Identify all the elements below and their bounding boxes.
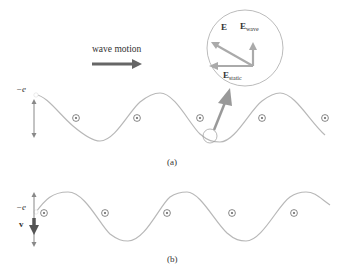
oscillation-arrow-a bbox=[32, 99, 37, 138]
velocity-arrow bbox=[29, 218, 39, 235]
velocity-label: v bbox=[19, 219, 24, 229]
caption-a: (a) bbox=[167, 157, 177, 167]
wave-motion-label: wave motion bbox=[92, 44, 141, 54]
electron-a bbox=[34, 93, 38, 97]
e-wave-label: Ewave bbox=[240, 21, 259, 32]
magnify-arrow bbox=[214, 88, 232, 130]
e-static-label: Estatic bbox=[223, 70, 242, 81]
ions-b bbox=[41, 210, 298, 217]
caption-b: (b) bbox=[167, 254, 178, 264]
e-total-label: E bbox=[221, 22, 227, 32]
wave-b bbox=[36, 192, 330, 241]
wave-motion-arrow bbox=[92, 59, 142, 69]
charge-label-a: −e bbox=[16, 84, 26, 94]
wave-diagram bbox=[0, 0, 349, 275]
charge-label-b: −e bbox=[16, 202, 26, 212]
ions-a bbox=[73, 115, 329, 122]
